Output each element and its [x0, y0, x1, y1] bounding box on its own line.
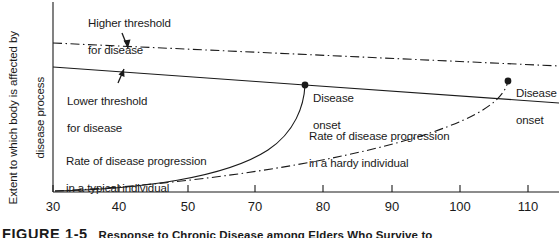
annotation-typical-rate-line2: in a typical individual	[66, 182, 207, 196]
x-tick-label-90: 90	[377, 200, 407, 214]
figure-container: Extent to which body is affected by dise…	[0, 0, 560, 238]
label-disease-onset-2: Disease onset	[516, 73, 557, 141]
annotation-lower-threshold-line2: for disease	[67, 122, 147, 136]
label-disease-onset-2-line1: Disease	[516, 87, 557, 101]
x-tick-label-40: 40	[104, 200, 134, 214]
x-tick-label-80: 80	[308, 200, 338, 214]
x-tick-label-110: 110	[513, 200, 543, 214]
annotation-higher-threshold-line2: for disease	[88, 44, 171, 58]
label-disease-onset-2-line2: onset	[516, 114, 557, 128]
figure-caption: FIGURE 1-5 Response to Chronic Disease a…	[2, 227, 558, 238]
x-tick-label-30: 30	[38, 200, 68, 214]
label-disease-onset-1-line1: Disease	[313, 92, 354, 106]
disease-onset-marker-2	[505, 78, 512, 85]
annotation-typical-rate-line1: Rate of disease progression	[66, 155, 207, 169]
annotation-lower-threshold: Lower threshold for disease	[67, 81, 147, 149]
x-tick-label-70: 70	[240, 200, 270, 214]
disease-onset-marker-1	[302, 82, 309, 89]
annotation-lower-threshold-line1: Lower threshold	[67, 95, 147, 109]
label-disease-onset-1: Disease onset	[313, 78, 354, 146]
label-disease-onset-1-line2: onset	[313, 119, 354, 133]
annotation-hardy-rate-line2: in a hardy individual	[309, 157, 450, 171]
annotation-higher-threshold: Higher threshold for disease	[88, 3, 171, 71]
figure-caption-text: Response to Chronic Disease among Elders…	[98, 229, 432, 238]
x-tick-label-50: 50	[173, 200, 203, 214]
annotation-higher-threshold-line1: Higher threshold	[88, 17, 171, 31]
figure-caption-number: FIGURE 1-5	[2, 227, 88, 238]
x-tick-label-100: 100	[445, 200, 475, 214]
